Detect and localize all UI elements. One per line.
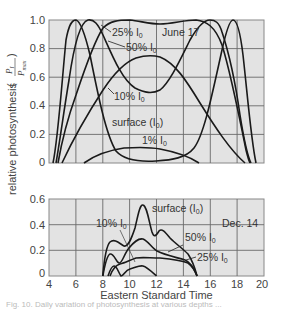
- june-title: June 17: [162, 26, 200, 38]
- june-50pct-label: 50% I0: [126, 41, 157, 54]
- y-frac-denominator: Pmax: [16, 60, 27, 77]
- svg-text:(: (: [5, 83, 17, 87]
- dec-surface-label: surface (I0): [152, 202, 203, 215]
- svg-text:18: 18: [231, 278, 243, 290]
- dec-25pct-label: 25% I0: [197, 251, 228, 264]
- svg-text:0.4: 0.4: [30, 99, 45, 111]
- june-plot: 25% I0 50% I0 June 17 10% I0 surface (I0…: [30, 14, 264, 168]
- svg-text:0.2: 0.2: [30, 128, 45, 140]
- dec-10pct-label: 10% I0: [96, 217, 127, 230]
- dec-plot: surface (I0) 10% I0 Dec. 14 50% I0 25% I…: [30, 193, 268, 301]
- june-y-ticks: 1.0 0.8 0.6 0.4 0.2 0: [30, 14, 45, 168]
- june-surface-label: surface (I0): [112, 116, 163, 129]
- dec-50pct-label: 50% I0: [185, 231, 216, 244]
- y-frac-numerator: PI: [4, 66, 15, 76]
- svg-text:relative photosynthesis: relative photosynthesis: [6, 83, 18, 195]
- svg-text:0.4: 0.4: [30, 219, 45, 231]
- june-25pct-label: 25% I0: [112, 26, 143, 39]
- svg-text:0.6: 0.6: [30, 71, 45, 83]
- svg-text:20: 20: [256, 278, 268, 290]
- svg-text:1.0: 1.0: [30, 14, 45, 26]
- y-axis-label: relative photosynthesis ( PI Pmax ): [4, 53, 27, 195]
- svg-text:): ): [5, 53, 17, 57]
- photosynthesis-chart: 25% I0 50% I0 June 17 10% I0 surface (I0…: [0, 0, 282, 312]
- svg-text:6: 6: [73, 278, 79, 290]
- svg-text:0: 0: [39, 267, 45, 279]
- dec-title: Dec. 14: [222, 217, 258, 229]
- svg-text:0.2: 0.2: [30, 244, 45, 256]
- svg-text:0.6: 0.6: [30, 193, 45, 205]
- june-10pct-label: 10% I0: [114, 90, 145, 103]
- figure-caption: Fig. 10. Daily variation of photosynthes…: [6, 300, 278, 312]
- svg-text:0: 0: [39, 156, 45, 168]
- svg-text:0.8: 0.8: [30, 42, 45, 54]
- dec-y-ticks: 0.6 0.4 0.2 0: [30, 193, 45, 279]
- svg-text:4: 4: [46, 278, 52, 290]
